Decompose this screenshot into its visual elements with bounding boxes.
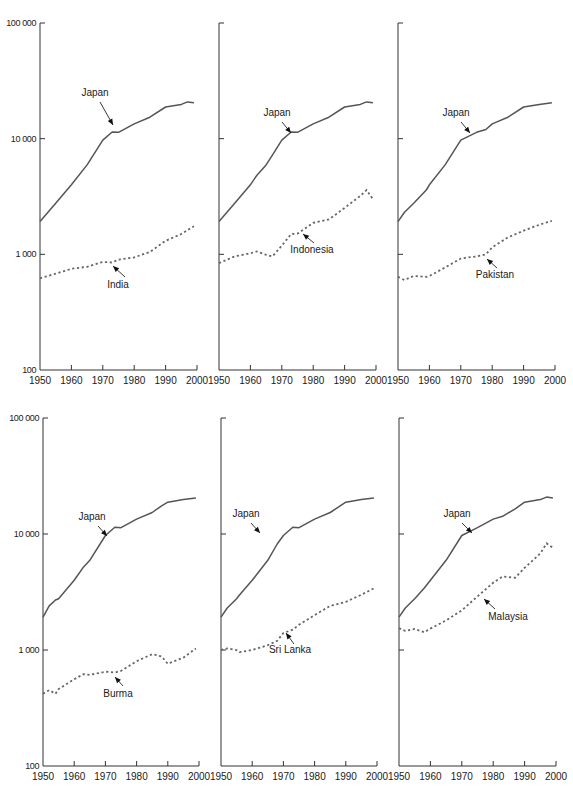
x-tick-label: 1960 (419, 771, 442, 782)
y-tick-label: 100 (22, 365, 36, 375)
series-label-japan: Japan (78, 511, 105, 522)
x-tick-label: 1960 (63, 771, 86, 782)
x-tick-label: 1980 (481, 375, 504, 386)
x-tick-label: 2000 (365, 375, 388, 386)
series-label-japan: Japan (81, 87, 108, 98)
chart-panel-top-right: 195019601970198019902000JapanPakistan (387, 23, 567, 386)
x-tick-label: 1980 (302, 375, 325, 386)
x-tick-label: 1980 (303, 771, 326, 782)
series-label-japan: Japan (232, 508, 259, 519)
series-line-japan (43, 498, 196, 617)
y-tick-label: 10 000 (11, 134, 37, 144)
x-tick-label: 1970 (272, 771, 295, 782)
series-label-sri-lanka: Sri Lanka (269, 644, 312, 655)
y-tick-label: 100 000 (9, 413, 39, 423)
figure-container: 100 00010 0001 0001001950196019701980199… (0, 0, 573, 805)
y-tick-label: 10 000 (14, 529, 40, 539)
y-tick-label: 100 (25, 761, 39, 771)
x-tick-label: 1970 (271, 375, 294, 386)
chart-panel-bottom-left: 100 00010 0001 0001001950196019701980199… (9, 413, 210, 782)
x-tick-label: 1970 (451, 771, 474, 782)
x-tick-label: 1990 (333, 375, 356, 386)
x-tick-label: 1960 (418, 375, 441, 386)
arrowhead-icon (286, 633, 292, 639)
x-tick-label: 1990 (335, 771, 358, 782)
x-tick-label: 1990 (513, 771, 536, 782)
x-tick-label: 1950 (32, 771, 55, 782)
x-tick-label: 1950 (210, 771, 233, 782)
x-tick-label: 1950 (208, 375, 231, 386)
series-label-japan: Japan (442, 107, 469, 118)
x-tick-label: 1990 (512, 375, 535, 386)
series-label-burma: Burma (103, 688, 133, 699)
x-tick-label: 2000 (545, 771, 568, 782)
x-tick-label: 2000 (188, 771, 211, 782)
series-line-japan (219, 102, 373, 222)
x-tick-label: 1950 (387, 375, 410, 386)
series-label-indonesia: Indonesia (290, 244, 334, 255)
axes (399, 418, 556, 766)
axes (398, 23, 555, 370)
x-tick-label: 1980 (123, 375, 146, 386)
chart-panel-bottom-middle: 195019601970198019902000JapanSri Lanka (210, 418, 389, 782)
y-tick-label: 1 000 (18, 645, 39, 655)
axes (221, 418, 377, 766)
x-tick-label: 1980 (482, 771, 505, 782)
y-tick-label: 100 000 (6, 18, 36, 28)
x-tick-label: 2000 (366, 771, 389, 782)
chart-panel-top-left: 100 00010 0001 0001001950196019701980199… (6, 18, 208, 386)
axes (43, 418, 199, 766)
x-tick-label: 1990 (157, 771, 180, 782)
x-tick-label: 1960 (239, 375, 262, 386)
x-tick-label: 1970 (92, 375, 115, 386)
series-line-burma (43, 649, 196, 694)
x-tick-label: 1950 (388, 771, 411, 782)
axes (40, 23, 197, 370)
axes (219, 23, 376, 370)
x-tick-label: 2000 (544, 375, 567, 386)
y-tick-label: 1 000 (15, 249, 36, 259)
x-tick-label: 2000 (186, 375, 209, 386)
x-tick-label: 1990 (154, 375, 177, 386)
series-label-pakistan: Pakistan (476, 269, 514, 280)
series-line-japan (40, 102, 194, 222)
series-line-japan (398, 103, 552, 222)
series-label-india: India (107, 279, 129, 290)
x-tick-label: 1980 (125, 771, 148, 782)
x-tick-label: 1950 (29, 375, 52, 386)
series-line-sri-lanka (221, 588, 374, 652)
chart-panel-top-middle: 195019601970198019902000JapanIndonesia (208, 23, 388, 386)
series-line-malaysia (399, 543, 553, 632)
series-label-malaysia: Malaysia (488, 611, 528, 622)
x-tick-label: 1960 (60, 375, 83, 386)
series-line-japan (399, 497, 553, 617)
series-label-japan: Japan (443, 508, 470, 519)
series-label-japan: Japan (263, 107, 290, 118)
x-tick-label: 1970 (94, 771, 117, 782)
x-tick-label: 1960 (241, 771, 264, 782)
x-tick-label: 1970 (450, 375, 473, 386)
small-multiples-chart: 100 00010 0001 0001001950196019701980199… (0, 0, 573, 805)
chart-panel-bottom-right: 195019601970198019902000JapanMalaysia (388, 418, 568, 782)
